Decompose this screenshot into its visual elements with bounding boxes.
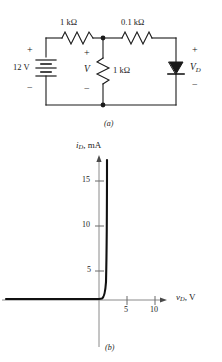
resistor-series-1kohm: [62, 32, 93, 44]
node-dot-top: [101, 36, 106, 41]
resistor-shunt-1kohm-label: 1 kΩ: [113, 66, 130, 75]
diode-minus-sign: −: [192, 80, 198, 90]
diode-curve: [6, 160, 107, 299]
panel-a-caption: (a): [104, 120, 113, 128]
resistor-series-0p1kohm: [122, 32, 152, 44]
x-tick-label-5: 5: [124, 306, 128, 314]
x-axis-arrowhead: [160, 297, 167, 302]
x-axis-label: vD, V: [176, 293, 196, 303]
y-tick-label-10: 10: [82, 221, 90, 229]
x-tick-label-10: 10: [150, 306, 158, 314]
diode-voltage-label: VD: [190, 63, 201, 73]
source-plus-sign: +: [27, 45, 33, 55]
y-axis-label: iD, mA: [76, 141, 101, 151]
resistor-series-0p1kohm-label: 0.1 kΩ: [121, 18, 144, 27]
y-tick-label-15: 15: [82, 176, 90, 184]
panel-b-caption: (b): [105, 344, 114, 352]
y-axis-units: , mA: [83, 140, 101, 150]
node-dot-bottom: [101, 103, 106, 108]
resistor-shunt-1kohm: [97, 58, 109, 84]
diode-voltage-subscript: D: [196, 66, 201, 73]
circuit-diagram-svg: [0, 0, 222, 135]
diode-characteristic-chart: [0, 142, 222, 362]
source-minus-sign: −: [27, 83, 33, 93]
y-axis-arrowhead: [96, 155, 101, 162]
diode-plus-sign: +: [192, 45, 198, 55]
resistor-series-1kohm-label: 1 kΩ: [60, 18, 77, 27]
source-voltage-label: 12 V: [13, 63, 30, 72]
x-axis-units: , V: [185, 292, 196, 302]
node-plus-sign: +: [84, 48, 90, 58]
y-tick-label-5: 5: [87, 266, 91, 274]
node-minus-sign: −: [84, 84, 90, 94]
figure-container: 1 kΩ 0.1 kΩ 1 kΩ 12 V + − + V − + VD − (…: [0, 0, 222, 362]
node-voltage-label: V: [84, 65, 90, 75]
diode-triangle: [169, 62, 183, 74]
